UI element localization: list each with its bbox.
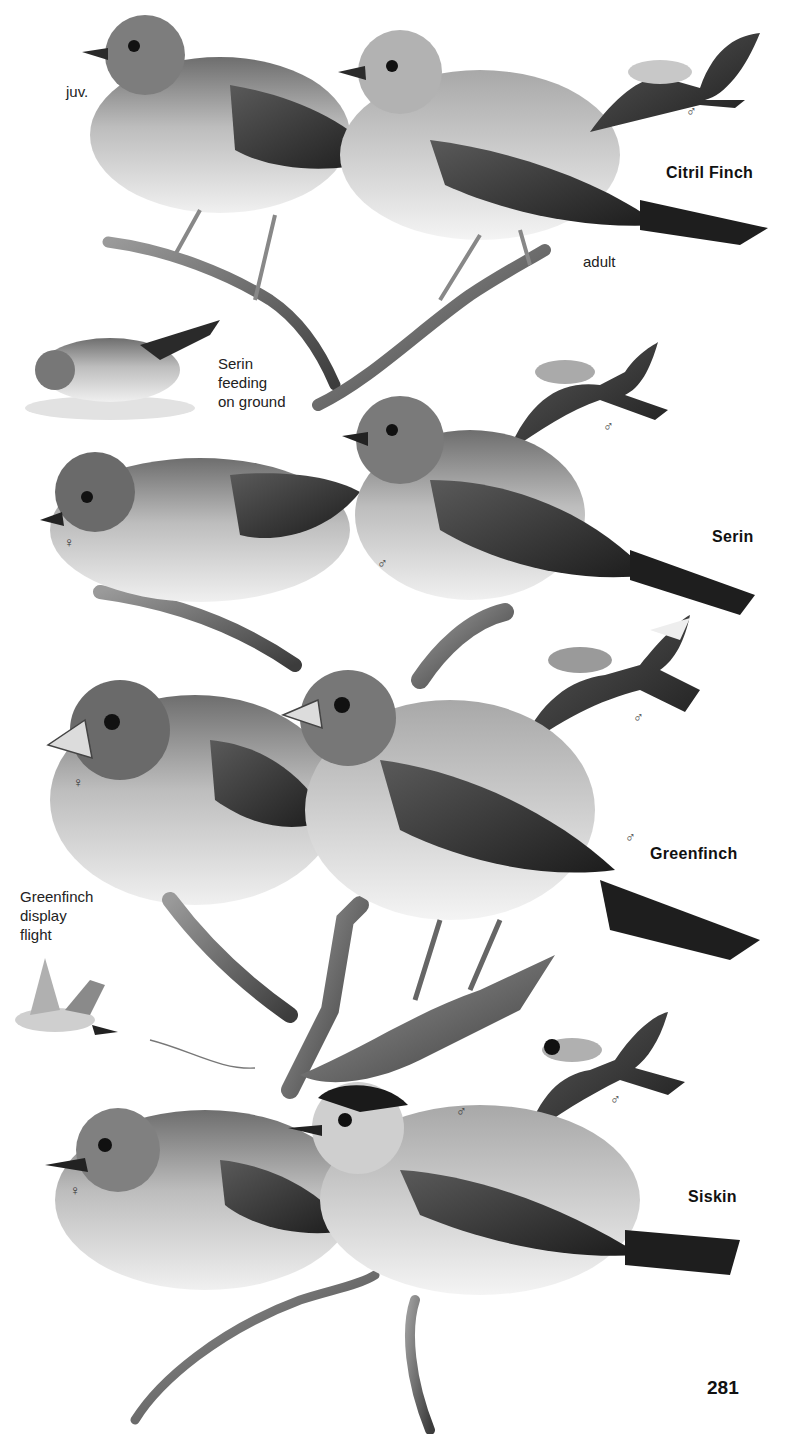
siskin-species-title: Siskin (688, 1188, 737, 1206)
siskin-male-symbol: ♂ (456, 1104, 467, 1118)
field-guide-plate: juv. ♂ Citril Finch adult Serin feeding … (0, 0, 799, 1434)
serin-female-symbol: ♀ (64, 535, 75, 549)
siskin-flight-male-symbol: ♂ (610, 1092, 621, 1106)
citril-finch-species-title: Citril Finch (666, 164, 753, 182)
page-number: 281 (707, 1377, 739, 1399)
greenfinch-female-symbol: ♀ (73, 775, 84, 789)
citril-finch-flight-male-symbol: ♂ (686, 104, 697, 118)
greenfinch-species-title: Greenfinch (650, 845, 737, 863)
greenfinch-display-flight-illustration (15, 958, 255, 1068)
bird-illustrations (0, 0, 799, 1434)
serin-species-title: Serin (712, 528, 754, 546)
citril-finch-flight-illustration (590, 33, 760, 132)
citril-finch-juvenile-illustration (82, 15, 380, 300)
greenfinch-display-flight-label: Greenfinch display flight (20, 887, 93, 944)
serin-flight-male-symbol: ♂ (603, 419, 614, 433)
siskin-male-illustration (288, 1082, 740, 1430)
serin-flight-illustration (508, 342, 668, 452)
greenfinch-male-symbol: ♂ (625, 830, 636, 844)
serin-female-illustration (40, 452, 360, 665)
serin-male-symbol: ♂ (377, 556, 388, 570)
greenfinch-flight-male-symbol: ♂ (633, 710, 644, 724)
serin-male-illustration (342, 396, 755, 680)
citril-finch-juvenile-label: juv. (66, 82, 88, 101)
serin-feeding-label: Serin feeding on ground (218, 354, 286, 411)
serin-feeding-illustration (25, 320, 220, 420)
siskin-female-symbol: ♀ (70, 1183, 81, 1197)
citril-finch-adult-label: adult (583, 252, 616, 271)
